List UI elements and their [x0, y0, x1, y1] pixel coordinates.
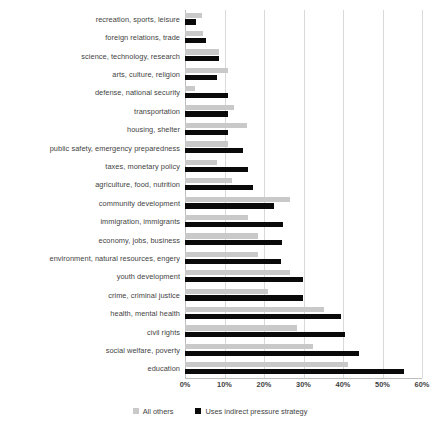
bar-group — [185, 231, 422, 249]
category-label: defense, national security — [0, 88, 180, 97]
category-label: education — [0, 364, 180, 373]
chart-legend: All othersUses indirect pressure strateg… — [0, 404, 440, 418]
x-tick-label: 50% — [363, 380, 403, 390]
x-tick-label: 60% — [402, 380, 440, 390]
bar-all-others — [185, 86, 195, 91]
legend-swatch-icon — [195, 408, 201, 414]
bar-indirect-pressure — [185, 75, 217, 80]
bar-group — [185, 194, 422, 212]
bar-all-others — [185, 141, 228, 146]
bar-group — [185, 47, 422, 65]
bar-indirect-pressure — [185, 167, 248, 172]
x-tick-label: 40% — [323, 380, 363, 390]
bar-group — [185, 268, 422, 286]
bar-all-others — [185, 31, 203, 36]
bar-group — [185, 323, 422, 341]
bar-all-others — [185, 252, 258, 257]
category-label: housing, shelter — [0, 125, 180, 134]
bar-indirect-pressure — [185, 93, 228, 98]
bar-all-others — [185, 307, 324, 312]
category-label: transportation — [0, 107, 180, 116]
category-label: environment, natural resources, engery — [0, 254, 180, 263]
category-label: foreign relations, trade — [0, 33, 180, 42]
bar-all-others — [185, 289, 268, 294]
bar-indirect-pressure — [185, 111, 228, 116]
bar-group — [185, 84, 422, 102]
bar-all-others — [185, 215, 248, 220]
bar-indirect-pressure — [185, 277, 303, 282]
bar-group — [185, 28, 422, 46]
bar-indirect-pressure — [185, 351, 359, 356]
bar-all-others — [185, 270, 290, 275]
legend-swatch-icon — [133, 408, 139, 414]
plot-area — [185, 10, 422, 378]
category-label: community development — [0, 199, 180, 208]
bar-all-others — [185, 233, 258, 238]
bar-all-others — [185, 344, 313, 349]
bar-group — [185, 249, 422, 267]
x-axis-line — [185, 378, 422, 379]
legend-label: Uses indirect pressure strategy — [205, 407, 307, 416]
bar-indirect-pressure — [185, 222, 283, 227]
bar-all-others — [185, 68, 228, 73]
category-label: agriculture, food, nutrition — [0, 180, 180, 189]
category-label: social welfare, poverty — [0, 346, 180, 355]
x-tick-label: 0% — [165, 380, 205, 390]
category-label: youth development — [0, 272, 180, 281]
legend-label: All others — [143, 407, 174, 416]
x-tick-label: 30% — [284, 380, 324, 390]
bar-group — [185, 212, 422, 230]
bar-all-others — [185, 160, 217, 165]
bar-all-others — [185, 178, 232, 183]
bar-all-others — [185, 362, 348, 367]
bar-all-others — [185, 13, 202, 18]
bar-group — [185, 102, 422, 120]
bar-indirect-pressure — [185, 332, 345, 337]
bar-indirect-pressure — [185, 185, 253, 190]
category-label: arts, culture, religion — [0, 70, 180, 79]
bar-indirect-pressure — [185, 240, 282, 245]
bar-indirect-pressure — [185, 295, 303, 300]
category-label: economy, jobs, business — [0, 236, 180, 245]
bar-indirect-pressure — [185, 19, 196, 24]
bar-indirect-pressure — [185, 38, 206, 43]
bar-group — [185, 286, 422, 304]
bar-indirect-pressure — [185, 259, 281, 264]
category-label: civil rights — [0, 328, 180, 337]
bar-indirect-pressure — [185, 148, 243, 153]
bar-indirect-pressure — [185, 130, 228, 135]
bar-group — [185, 360, 422, 378]
category-label: taxes, monetary policy — [0, 162, 180, 171]
bar-all-others — [185, 49, 219, 54]
category-label: public safety, emergency preparedness — [0, 144, 180, 153]
legend-item[interactable]: All others — [133, 407, 174, 416]
bar-all-others — [185, 197, 290, 202]
bar-indirect-pressure — [185, 314, 341, 319]
bar-all-others — [185, 123, 247, 128]
bar-all-others — [185, 105, 234, 110]
x-axis-ticks: 0%10%20%30%40%50%60% — [185, 380, 422, 392]
category-label: health, mental health — [0, 309, 180, 318]
x-tick-label: 20% — [244, 380, 284, 390]
bar-chart: recreation, sports, leisureforeign relat… — [0, 0, 440, 431]
bar-group — [185, 341, 422, 359]
category-label: crime, criminal justice — [0, 291, 180, 300]
gridline-60 — [422, 10, 423, 378]
bar-group — [185, 65, 422, 83]
bar-group — [185, 157, 422, 175]
category-label: recreation, sports, leisure — [0, 15, 180, 24]
bar-indirect-pressure — [185, 203, 274, 208]
legend-item[interactable]: Uses indirect pressure strategy — [195, 407, 307, 416]
x-tick-label: 10% — [205, 380, 245, 390]
category-label: immigration, immigrants — [0, 217, 180, 226]
category-label: science, technology, research — [0, 52, 180, 61]
bar-group — [185, 120, 422, 138]
category-axis-labels: recreation, sports, leisureforeign relat… — [0, 10, 180, 378]
bar-group — [185, 10, 422, 28]
bar-rows — [185, 10, 422, 378]
bar-all-others — [185, 325, 297, 330]
bar-indirect-pressure — [185, 56, 219, 61]
bar-group — [185, 176, 422, 194]
bar-indirect-pressure — [185, 369, 404, 374]
bar-group — [185, 304, 422, 322]
